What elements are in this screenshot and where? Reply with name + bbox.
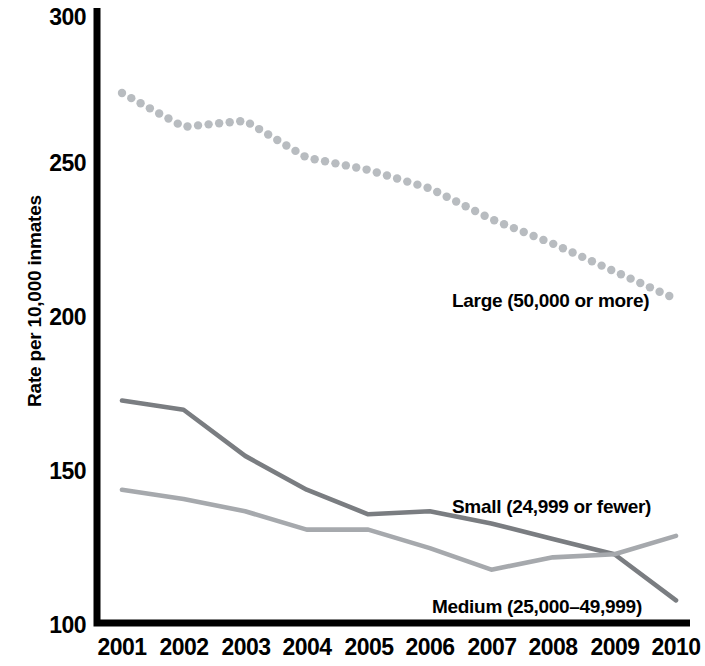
data-point — [194, 121, 202, 129]
data-point — [452, 197, 460, 205]
x-tick-2006: 2006 — [395, 634, 465, 661]
data-point — [549, 240, 557, 248]
data-point — [342, 161, 350, 169]
data-point — [578, 253, 586, 261]
data-point — [529, 232, 537, 240]
data-point — [510, 224, 518, 232]
data-point — [442, 193, 450, 201]
data-point — [617, 270, 625, 278]
data-point — [490, 216, 498, 224]
data-point — [413, 180, 421, 188]
data-point — [665, 292, 673, 300]
data-point — [310, 155, 318, 163]
data-point — [423, 183, 431, 191]
data-point — [264, 130, 272, 138]
data-point — [146, 104, 154, 112]
x-tick-2010: 2010 — [641, 634, 705, 661]
data-point — [500, 220, 508, 228]
data-point — [597, 261, 605, 269]
data-point — [246, 119, 254, 127]
data-point — [321, 157, 329, 165]
data-point — [174, 119, 182, 127]
series-large — [118, 89, 674, 300]
data-point — [136, 99, 144, 107]
data-point — [403, 177, 411, 185]
data-point — [433, 188, 441, 196]
data-point — [236, 117, 244, 125]
data-point — [215, 119, 223, 127]
series-layer — [118, 89, 676, 601]
data-point — [607, 266, 615, 274]
x-tick-2001: 2001 — [87, 634, 157, 661]
x-tick-2007: 2007 — [457, 634, 527, 661]
data-point — [636, 279, 644, 287]
data-point — [461, 202, 469, 210]
data-point — [588, 257, 596, 265]
data-point — [291, 147, 299, 155]
axis-lines — [97, 8, 690, 623]
data-point — [559, 244, 567, 252]
x-tick-2008: 2008 — [518, 634, 588, 661]
data-point — [626, 274, 634, 282]
data-point — [480, 212, 488, 220]
data-point — [204, 120, 212, 128]
data-point — [471, 207, 479, 215]
data-point — [273, 136, 281, 144]
x-tick-2009: 2009 — [580, 634, 650, 661]
data-point — [164, 114, 172, 122]
data-point — [362, 165, 370, 173]
data-point — [225, 118, 233, 126]
data-point — [539, 236, 547, 244]
x-tick-2004: 2004 — [272, 634, 342, 661]
series-label-large: Large (50,000 or more) — [452, 290, 649, 312]
data-point — [373, 168, 381, 176]
data-point — [655, 287, 663, 295]
series-label-small: Small (24,999 or fewer) — [452, 496, 651, 518]
data-point — [568, 248, 576, 256]
data-point — [155, 109, 163, 117]
data-point — [393, 174, 401, 182]
data-point — [520, 228, 528, 236]
data-point — [300, 152, 308, 160]
data-point — [352, 163, 360, 171]
data-point — [127, 94, 135, 102]
data-point — [183, 122, 191, 130]
x-tick-2005: 2005 — [334, 634, 404, 661]
data-point — [383, 171, 391, 179]
data-point — [255, 125, 263, 133]
series-label-medium: Medium (25,000–49,999) — [432, 596, 642, 618]
data-point — [118, 89, 126, 97]
x-tick-2003: 2003 — [211, 634, 281, 661]
data-point — [331, 159, 339, 167]
x-tick-2002: 2002 — [149, 634, 219, 661]
data-point — [282, 141, 290, 149]
